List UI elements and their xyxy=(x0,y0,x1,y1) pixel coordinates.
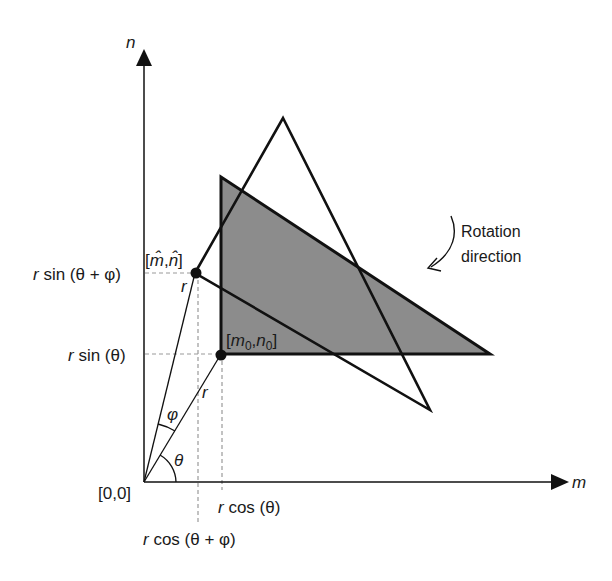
theta-label: θ xyxy=(174,451,184,470)
x-original-label: r cos (θ) xyxy=(218,498,280,517)
phi-arc xyxy=(158,424,175,431)
radius-label-original: r xyxy=(202,383,209,402)
origin-label: [0,0] xyxy=(98,484,131,503)
original-triangle xyxy=(221,177,490,354)
original-point xyxy=(216,350,227,361)
m-axis-label: m xyxy=(572,473,586,492)
rotation-label-line1: Rotation xyxy=(461,223,521,240)
rotated-point-label: [m̂,n̂] xyxy=(145,250,183,270)
rotation-label-line2: direction xyxy=(461,248,521,265)
rotation-diagram: n m [0,0] [m̂,n̂] [m0,n0] r r φ θ r sin … xyxy=(0,0,612,581)
radius-label-rotated: r xyxy=(181,277,188,296)
y-original-label: r sin (θ) xyxy=(68,346,126,365)
n-axis-label: n xyxy=(126,33,135,52)
x-rotated-label: r cos (θ + φ) xyxy=(143,530,236,549)
y-rotated-label: r sin (θ + φ) xyxy=(33,265,121,284)
rotation-arrow-icon xyxy=(431,216,454,267)
rotated-point xyxy=(191,268,202,279)
m-axis-arrowhead-icon xyxy=(551,474,569,490)
n-axis-arrowhead-icon xyxy=(136,49,152,66)
radius-to-rotated xyxy=(144,273,195,482)
phi-label: φ xyxy=(167,405,178,424)
